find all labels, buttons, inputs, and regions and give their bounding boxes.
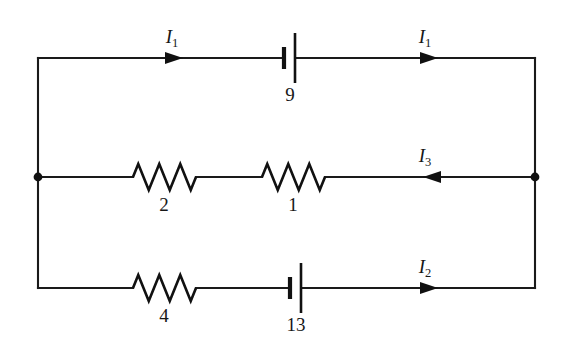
resistor-1-label: 1 xyxy=(288,194,298,215)
current-label-i1-right: I1 xyxy=(418,26,432,50)
resistor-4 xyxy=(133,275,196,301)
current-arrow-i2 xyxy=(420,282,438,294)
current-arrow-i1-left xyxy=(165,52,183,64)
current-i3-subscript: 3 xyxy=(425,155,431,169)
top-branch xyxy=(38,33,535,83)
resistor-1 xyxy=(262,164,325,190)
bottom-branch xyxy=(38,263,535,313)
right-junction-dot xyxy=(531,173,540,182)
circuit-schematic-canvas: 9 2 1 4 13 I1 I1 I3 I2 xyxy=(0,0,561,338)
battery-13-label: 13 xyxy=(287,314,306,335)
circuit-diagram: 9 2 1 4 13 I1 I1 I3 I2 xyxy=(0,0,561,338)
current-label-i3: I3 xyxy=(418,145,432,169)
current-i1-left-subscript: 1 xyxy=(172,36,178,50)
current-i1-right-subscript: 1 xyxy=(425,36,431,50)
battery-9 xyxy=(284,33,295,83)
resistor-2-label: 2 xyxy=(159,194,169,215)
resistor-2 xyxy=(133,164,196,190)
left-junction-dot xyxy=(34,173,43,182)
current-i2-subscript: 2 xyxy=(425,266,431,280)
current-arrow-i3 xyxy=(423,171,441,183)
battery-9-label: 9 xyxy=(285,84,295,105)
battery-13 xyxy=(290,263,301,313)
current-arrow-i1-right xyxy=(420,52,438,64)
current-label-i2: I2 xyxy=(418,256,432,280)
middle-branch xyxy=(38,164,535,190)
resistor-4-label: 4 xyxy=(159,305,169,326)
current-label-i1-left: I1 xyxy=(165,26,179,50)
